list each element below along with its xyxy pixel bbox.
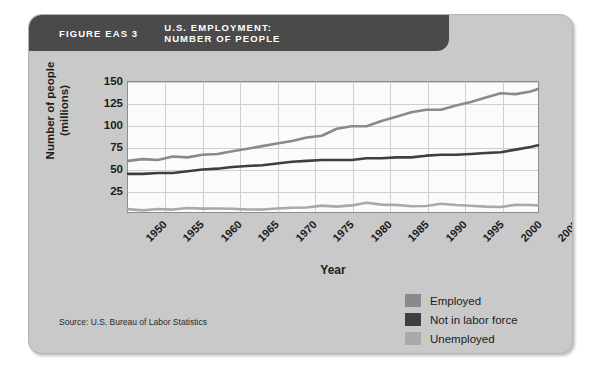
chart-area: Number of people (millions) 255075100125… xyxy=(29,51,573,354)
legend-item: Not in labor force xyxy=(405,310,565,329)
x-tick-label: 1955 xyxy=(181,218,207,244)
y-tick-label: 50 xyxy=(89,163,123,175)
figure-title-bar: FIGURE EAS 3 U.S. EMPLOYMENT: NUMBER OF … xyxy=(29,15,449,51)
legend-swatch xyxy=(405,332,421,345)
y-axis-ticks: 255075100125150 xyxy=(81,81,123,213)
legend-item: Employed xyxy=(405,291,565,310)
plot-frame xyxy=(127,81,539,213)
legend-label: Unemployed xyxy=(430,333,495,345)
chart-legend: EmployedNot in labor forceUnemployed xyxy=(405,291,565,348)
legend-label: Not in labor force xyxy=(430,314,518,326)
x-tick-label: 1975 xyxy=(330,218,356,244)
series-line xyxy=(128,203,538,211)
x-tick-label: 1950 xyxy=(143,218,169,244)
x-tick-label: 2000 xyxy=(518,218,544,244)
x-tick-label: 1985 xyxy=(405,218,431,244)
legend-swatch xyxy=(405,313,421,326)
y-tick-label: 150 xyxy=(89,75,123,87)
y-axis-title: Number of people (millions) xyxy=(44,41,71,181)
x-tick-label: 1960 xyxy=(218,218,244,244)
figure-card: FIGURE EAS 3 U.S. EMPLOYMENT: NUMBER OF … xyxy=(28,14,573,354)
figure-number-label: FIGURE EAS 3 xyxy=(59,28,138,39)
legend-swatch xyxy=(405,294,421,307)
x-tick-label: 1965 xyxy=(256,218,282,244)
series-lines xyxy=(128,82,538,212)
x-tick-label: 1970 xyxy=(293,218,319,244)
x-axis-title: Year xyxy=(127,263,539,277)
figure-title-label: U.S. EMPLOYMENT: NUMBER OF PEOPLE xyxy=(164,22,280,45)
x-tick-label: 1990 xyxy=(443,218,469,244)
series-line xyxy=(128,89,538,161)
legend-item: Unemployed xyxy=(405,329,565,348)
x-tick-label: 2005 xyxy=(555,218,573,244)
x-tick-label: 1995 xyxy=(480,218,506,244)
x-axis-ticks: 1950195519601965197019751980198519901995… xyxy=(127,214,539,254)
series-line xyxy=(128,145,538,174)
legend-label: Employed xyxy=(430,295,481,307)
y-tick-label: 75 xyxy=(89,141,123,153)
x-tick-label: 1980 xyxy=(368,218,394,244)
y-tick-label: 125 xyxy=(89,97,123,109)
y-tick-label: 100 xyxy=(89,119,123,131)
source-note: Source: U.S. Bureau of Labor Statistics xyxy=(59,317,207,327)
y-tick-label: 25 xyxy=(89,185,123,197)
